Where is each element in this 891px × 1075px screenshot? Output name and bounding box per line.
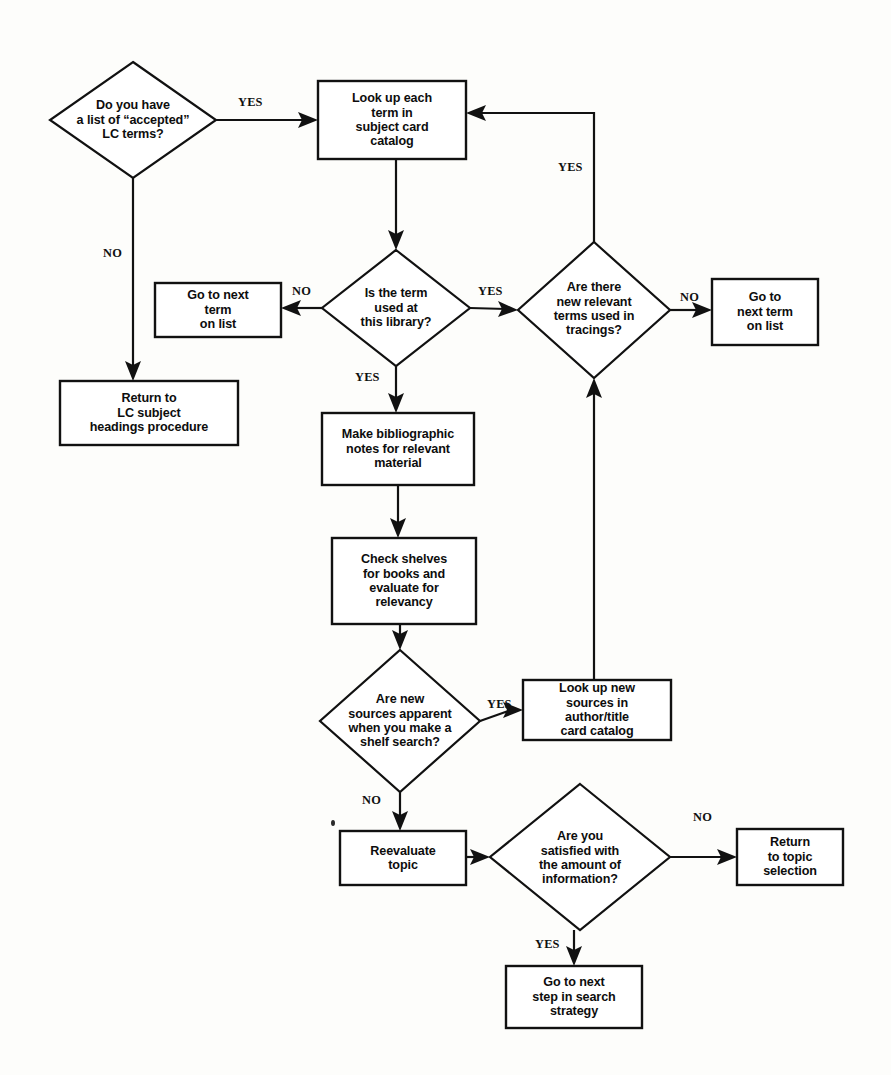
scan-speck-artifact: [331, 820, 335, 826]
node-look-up-new-sources[interactable]: [523, 680, 671, 740]
node-return-topic-selection[interactable]: [737, 829, 843, 885]
edge-satisfied-yes: [566, 930, 582, 966]
edge-term-used-yes-right: [470, 301, 518, 317]
flowchart-canvas: Do you havea list of “accepted”LC terms?…: [0, 0, 891, 1075]
edge-term-used-yes-down: [388, 366, 404, 413]
node-go-next-term-right[interactable]: [712, 279, 818, 345]
edge-new-terms-no: [670, 302, 712, 318]
edge-new-terms-yes: [466, 105, 594, 242]
node-make-notes[interactable]: [322, 413, 474, 485]
edge-have-list-yes: [216, 112, 318, 128]
flowchart-svg: [0, 0, 891, 1075]
node-go-next-term-left[interactable]: [155, 283, 281, 337]
edge-shelves-to-new-sources: [392, 624, 408, 650]
node-return-lc-subject[interactable]: [60, 381, 238, 445]
node-new-sources[interactable]: [320, 650, 480, 792]
node-new-relevant-terms[interactable]: [518, 242, 670, 378]
edge-new-sources-no: [392, 792, 408, 831]
edge-look-up-to-term-used: [388, 159, 404, 250]
node-reevaluate-topic[interactable]: [340, 831, 466, 885]
edge-make-notes-to-shelves: [390, 485, 406, 538]
edge-have-list-no: [125, 178, 141, 381]
node-go-next-step[interactable]: [506, 966, 642, 1028]
edge-term-used-no: [281, 300, 322, 316]
edge-look-up-new-to-new-terms: [586, 378, 602, 680]
edge-reevaluate-to-satisfied: [466, 849, 490, 865]
node-have-list[interactable]: [50, 62, 216, 178]
edge-new-sources-yes: [480, 702, 523, 721]
node-look-up-each-term[interactable]: [318, 81, 466, 159]
node-satisfied[interactable]: [490, 784, 670, 930]
node-term-used[interactable]: [322, 250, 470, 366]
node-check-shelves[interactable]: [332, 538, 476, 624]
edge-satisfied-no: [670, 849, 737, 865]
